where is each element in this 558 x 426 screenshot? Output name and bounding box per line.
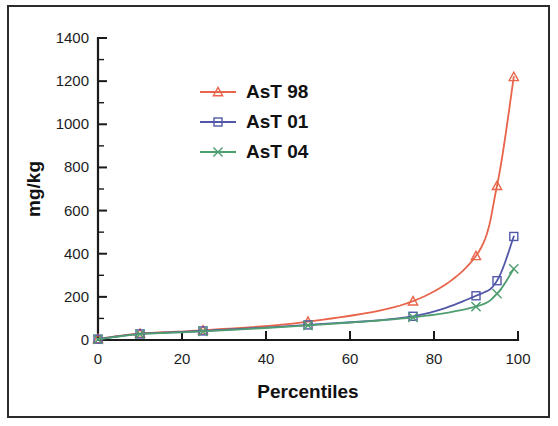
y-axis-title: mg/kg <box>23 161 44 217</box>
y-tick-label: 800 <box>64 158 89 175</box>
legend-entry: AsT 01 <box>200 111 309 132</box>
chart-legend: AsT 98AsT 01AsT 04 <box>200 81 309 162</box>
y-tick-label: 1400 <box>56 29 89 46</box>
y-axis-ticks: 0200400600800100012001400 <box>56 29 107 348</box>
y-tick-label: 1200 <box>56 72 89 89</box>
legend-entry: AsT 98 <box>200 81 308 102</box>
x-axis-title: Percentiles <box>257 381 358 402</box>
legend-entry: AsT 04 <box>200 141 309 162</box>
x-tick-label: 80 <box>426 350 443 367</box>
marker-x <box>492 289 501 298</box>
y-tick-label: 0 <box>81 331 89 348</box>
line-chart: 0200400600800100012001400 020406080100 A… <box>0 0 558 426</box>
x-tick-label: 100 <box>505 350 530 367</box>
x-tick-label: 20 <box>174 350 191 367</box>
y-tick-label: 1000 <box>56 115 89 132</box>
figure-container: 0200400600800100012001400 020406080100 A… <box>0 0 558 426</box>
x-axis-ticks: 020406080100 <box>94 331 531 367</box>
x-tick-label: 60 <box>342 350 359 367</box>
marker-x <box>509 264 518 273</box>
legend-label: AsT 98 <box>246 81 308 102</box>
y-tick-label: 600 <box>64 202 89 219</box>
x-tick-label: 0 <box>94 350 102 367</box>
x-tick-label: 40 <box>258 350 275 367</box>
legend-label: AsT 04 <box>246 141 309 162</box>
y-tick-label: 400 <box>64 245 89 262</box>
y-tick-label: 200 <box>64 288 89 305</box>
legend-label: AsT 01 <box>246 111 309 132</box>
axis-titles: Percentilesmg/kg <box>23 161 359 402</box>
